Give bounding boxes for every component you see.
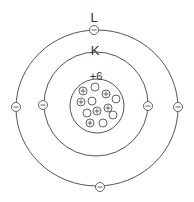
electron-icon	[96, 183, 105, 192]
neutron-icon	[83, 109, 91, 117]
neutron-icon	[88, 97, 96, 105]
neutron-icon	[112, 95, 120, 103]
neutron-icon	[109, 111, 117, 119]
shell-l-label: L	[90, 10, 97, 25]
proton-icon	[93, 107, 101, 115]
nucleus-charge-label: +6	[90, 70, 103, 82]
proton-icon	[102, 90, 110, 98]
atom-diagram: L K +6	[0, 0, 194, 202]
electron-icon	[174, 103, 183, 112]
electron-icon	[144, 102, 153, 111]
electron-icon	[39, 101, 48, 110]
shell-k-label: K	[91, 43, 100, 58]
proton-icon	[79, 87, 87, 95]
proton-icon	[104, 104, 112, 112]
neutron-icon	[99, 119, 107, 127]
electron-icon	[12, 103, 21, 112]
shell-k	[44, 52, 148, 156]
neutron-icon	[91, 83, 99, 91]
proton-icon	[86, 119, 94, 127]
electron-icon	[90, 26, 99, 35]
proton-icon	[77, 98, 85, 106]
